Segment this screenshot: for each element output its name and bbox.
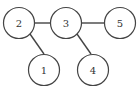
node-4-label: 4 <box>90 65 96 76</box>
node-2: 2 <box>4 8 35 39</box>
node-5-label: 5 <box>117 18 123 29</box>
node-3: 3 <box>51 8 82 39</box>
graph-diagram: 2 3 5 1 4 <box>0 0 139 91</box>
edge-2-1 <box>30 34 44 54</box>
node-3-label: 3 <box>63 18 69 29</box>
node-5: 5 <box>105 8 136 39</box>
node-1-label: 1 <box>41 65 47 76</box>
edge-3-4 <box>77 34 91 54</box>
node-4: 4 <box>78 55 109 86</box>
node-2-label: 2 <box>16 18 22 29</box>
node-1: 1 <box>29 55 60 86</box>
